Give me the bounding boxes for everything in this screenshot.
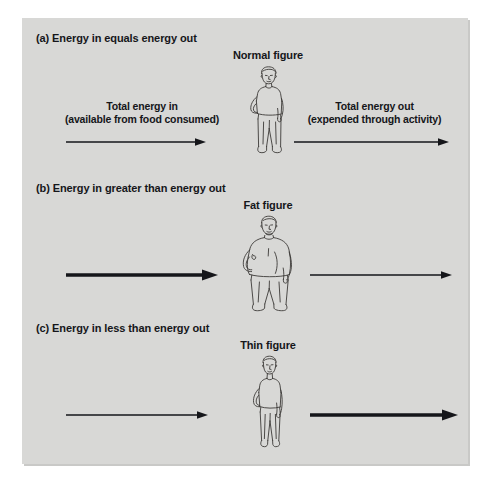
section-b-figure-label: Fat figure <box>208 199 328 211</box>
energy-balance-figure: (a) Energy in equals energy out Normal f… <box>0 0 490 486</box>
normal-figure-illustration <box>234 62 304 162</box>
section-c-heading: (c) Energy in less than energy out <box>36 322 209 334</box>
thin-figure-illustration <box>236 352 304 458</box>
section-a-heading: (a) Energy in equals energy out <box>36 32 197 44</box>
section-a-figure-label: Normal figure <box>208 49 328 61</box>
section-b-heading: (b) Energy in greater than energy out <box>36 182 225 194</box>
section-b-left-arrow-thick <box>66 268 218 282</box>
section-a-left-caption: Total energy in (available from food con… <box>42 100 242 126</box>
section-b-right-arrow-thin <box>310 268 452 282</box>
section-a-left-caption-line2: (available from food consumed) <box>42 113 242 126</box>
section-a-right-caption-line2: (expended through activity) <box>287 113 462 126</box>
section-a-right-caption-line1: Total energy out <box>287 100 462 113</box>
section-a-right-caption: Total energy out (expended through activ… <box>287 100 462 126</box>
section-a-left-caption-line1: Total energy in <box>42 100 242 113</box>
fat-figure-illustration <box>230 212 308 320</box>
section-c-right-arrow-thick <box>310 408 458 422</box>
illustration-panel: (a) Energy in equals energy out Normal f… <box>22 18 468 464</box>
section-a-right-arrow-thin <box>294 136 449 148</box>
section-c-figure-label: Thin figure <box>208 339 328 351</box>
section-a-left-arrow-thin <box>66 136 206 148</box>
section-c-left-arrow-thin <box>66 408 208 422</box>
